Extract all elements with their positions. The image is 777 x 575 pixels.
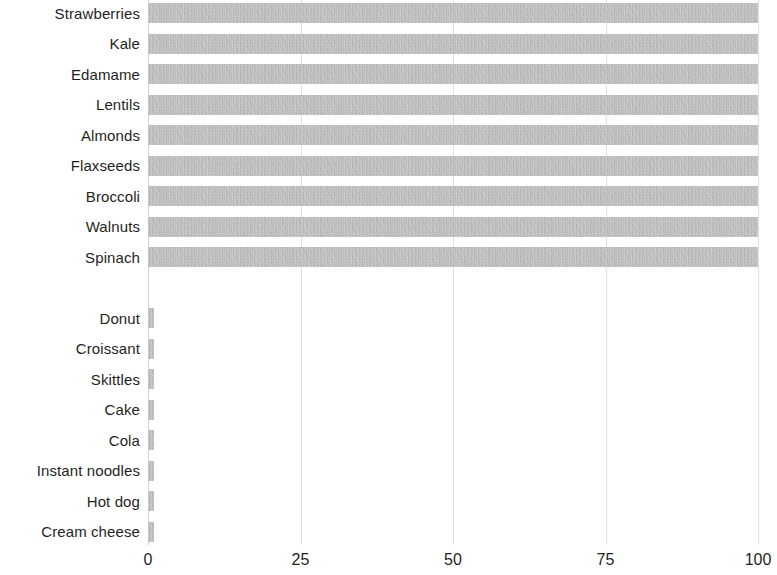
bar[interactable] (148, 64, 758, 84)
bar[interactable] (148, 461, 154, 481)
bar-row (148, 153, 758, 184)
y-axis-label: Instant noodles (0, 463, 140, 478)
bar-row (148, 336, 758, 367)
bar-row (148, 427, 758, 458)
bar-row (148, 31, 758, 62)
bar[interactable] (148, 308, 154, 328)
y-axis-label: Cola (0, 433, 140, 448)
bar[interactable] (148, 95, 758, 115)
bar-chart: StrawberriesKaleEdamameLentilsAlmondsFla… (0, 0, 777, 575)
bar[interactable] (148, 247, 758, 267)
bar[interactable] (148, 339, 154, 359)
y-axis-label: Kale (0, 36, 140, 51)
bar[interactable] (148, 400, 154, 420)
y-axis-label: Strawberries (0, 6, 140, 21)
x-axis-tick-label: 25 (292, 551, 310, 569)
x-axis-tick-label: 100 (745, 551, 772, 569)
y-axis-category-labels: StrawberriesKaleEdamameLentilsAlmondsFla… (0, 0, 140, 545)
y-axis-label: Cake (0, 402, 140, 417)
bar-row (148, 397, 758, 428)
bar-row (148, 61, 758, 92)
bar[interactable] (148, 217, 758, 237)
bar[interactable] (148, 430, 154, 450)
bar[interactable] (148, 34, 758, 54)
x-axis-tick-labels: 0255075100 (0, 545, 777, 575)
y-axis-label: Almonds (0, 128, 140, 143)
bar-row (148, 214, 758, 245)
y-axis-label: Flaxseeds (0, 158, 140, 173)
y-axis-label: Broccoli (0, 189, 140, 204)
bar-row (148, 244, 758, 275)
gridline-100 (758, 0, 759, 545)
bar-row (148, 92, 758, 123)
plot-area (148, 0, 758, 545)
bar-row (148, 0, 758, 31)
bar[interactable] (148, 125, 758, 145)
y-axis-label: Hot dog (0, 494, 140, 509)
x-axis-tick-label: 50 (444, 551, 462, 569)
y-axis-label: Cream cheese (0, 524, 140, 539)
bar-row (148, 366, 758, 397)
bar[interactable] (148, 156, 758, 176)
bar[interactable] (148, 491, 154, 511)
y-axis-label: Skittles (0, 372, 140, 387)
bar-row (148, 305, 758, 336)
bar-row-empty (148, 275, 758, 306)
bar-row (148, 458, 758, 489)
y-axis-label: Donut (0, 311, 140, 326)
y-axis-label: Walnuts (0, 219, 140, 234)
y-axis-label: Lentils (0, 97, 140, 112)
bar[interactable] (148, 522, 154, 542)
y-axis-label: Spinach (0, 250, 140, 265)
bar-row (148, 488, 758, 519)
bar-row (148, 183, 758, 214)
bar-row (148, 122, 758, 153)
x-axis-tick-label: 0 (144, 551, 153, 569)
bar[interactable] (148, 369, 154, 389)
x-axis-tick-label: 75 (597, 551, 615, 569)
y-axis-label: Edamame (0, 67, 140, 82)
bar[interactable] (148, 3, 758, 23)
bar[interactable] (148, 186, 758, 206)
y-axis-label: Croissant (0, 341, 140, 356)
